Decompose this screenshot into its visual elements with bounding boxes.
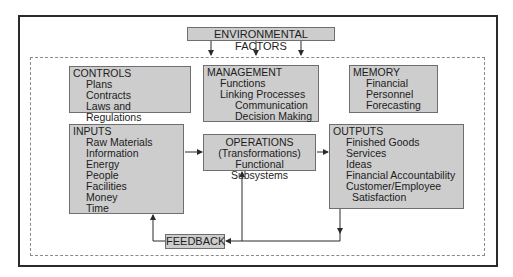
feedback-to-inputs-arrow: [153, 215, 165, 241]
connector-lines: [0, 0, 513, 277]
